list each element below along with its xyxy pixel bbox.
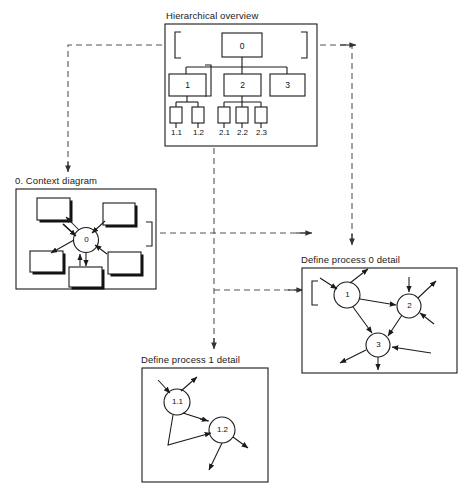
process1-label-1-2: 1.2 xyxy=(210,425,235,434)
process0-detail-title: Define process 0 detail xyxy=(301,254,400,265)
hierarchy-node-2-1 xyxy=(218,107,230,123)
hierarchy-label-2: 2 xyxy=(224,80,261,90)
hierarchy-label-2-2: 2.2 xyxy=(232,128,253,137)
entity-box-2 xyxy=(103,203,135,225)
hierarchy-node-1-1 xyxy=(170,107,182,123)
process1-detail-panel xyxy=(142,368,268,482)
context-process-label-0: 0 xyxy=(74,235,99,244)
hierarchy-node-2-3 xyxy=(255,107,267,123)
hierarchy-label-3: 3 xyxy=(270,80,305,90)
context-diagram-title: 0. Context diagram xyxy=(15,175,97,186)
entity-box-1 xyxy=(37,198,70,220)
process0-detail-panel xyxy=(302,268,457,373)
entity-box-5 xyxy=(69,267,102,287)
hierarchy-label-1-1: 1.1 xyxy=(166,128,187,137)
hierarchy-node-2-2 xyxy=(236,107,248,123)
hierarchy-label-0: 0 xyxy=(222,41,262,51)
process0-label-1: 1 xyxy=(335,290,360,299)
diagram-canvas: Hierarchical overview 0. Context diagram… xyxy=(0,0,465,494)
hierarchy-node-1-2 xyxy=(192,107,204,123)
process1-detail-frame xyxy=(142,368,268,482)
connector-root-to-context xyxy=(68,45,172,168)
process0-label-3: 3 xyxy=(366,340,391,349)
hierarchy-label-2-3: 2.3 xyxy=(251,128,272,137)
entity-box-3 xyxy=(30,251,63,272)
hierarchy-label-1-2: 1.2 xyxy=(188,128,209,137)
hierarchy-label-1: 1 xyxy=(169,80,206,90)
entity-box-4 xyxy=(108,252,141,274)
diagram-vector-layer xyxy=(0,0,465,494)
process1-label-1-1: 1.1 xyxy=(165,397,190,406)
process0-label-2: 2 xyxy=(397,301,422,310)
hierarchical-overview-title: Hierarchical overview xyxy=(166,10,258,21)
process1-detail-title: Define process 1 detail xyxy=(141,354,240,365)
